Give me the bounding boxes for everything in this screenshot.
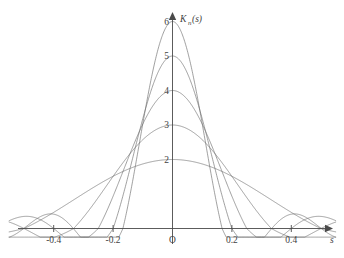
y-tick-label: 3 <box>164 120 169 130</box>
y-tick-label: 5 <box>164 51 169 61</box>
y-axis-label-base: K <box>179 14 187 24</box>
y-tick-label: 6 <box>164 17 169 27</box>
y-axis-label-argument: (s) <box>192 14 202 25</box>
y-tick-label: 4 <box>164 86 169 96</box>
y-axis-arrowhead <box>169 12 176 20</box>
x-tick-label: 0.2 <box>226 235 238 245</box>
x-tick-label: 0.4 <box>285 235 297 245</box>
x-tick-label: -0.2 <box>106 235 121 245</box>
origin-label: O <box>169 235 176 245</box>
y-tick-label-group: 23456 <box>164 17 169 165</box>
plot-canvas: -0.4-0.20.20.4 23456 O s K n (s) <box>0 0 344 258</box>
y-tick-label: 2 <box>164 155 169 165</box>
y-axis-label: K n (s) <box>179 14 202 27</box>
kernel-plot-figure: -0.4-0.20.20.4 23456 O s K n (s) <box>0 0 344 258</box>
x-axis-label: s <box>330 235 334 245</box>
x-tick-label: -0.4 <box>46 235 61 245</box>
